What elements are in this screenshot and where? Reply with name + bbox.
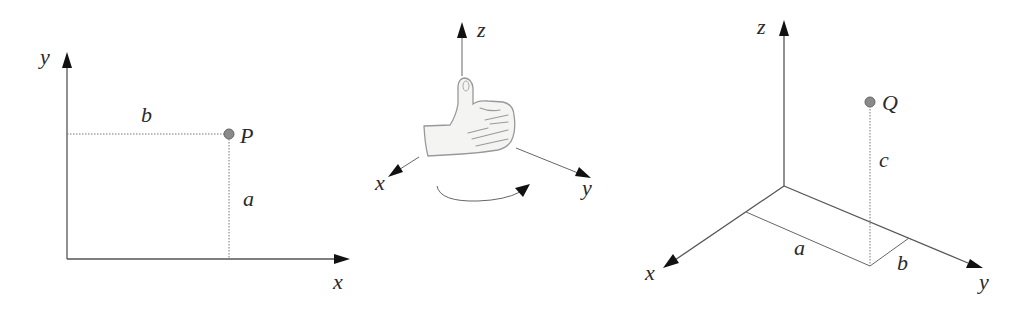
middle-right-hand-panel: z x y xyxy=(374,17,592,201)
x-arrowhead-icon xyxy=(388,164,403,177)
z-axis-label: z xyxy=(756,14,766,39)
q-label: Q xyxy=(882,90,898,115)
y-arrowhead-icon xyxy=(62,52,72,68)
z-arrowhead-icon xyxy=(779,20,789,36)
left-2d-panel: y b P a x xyxy=(38,44,350,294)
a-label: a xyxy=(243,186,254,211)
y-axis xyxy=(784,186,968,263)
p-label: P xyxy=(239,123,253,148)
y-axis-label: y xyxy=(977,269,989,294)
y-arrowhead-icon xyxy=(966,259,983,268)
thumbs-up-hand-icon xyxy=(424,78,515,156)
b-label: b xyxy=(897,250,908,275)
x-axis-label: x xyxy=(332,269,343,294)
x-axis-label: x xyxy=(374,170,385,195)
b-label: b xyxy=(141,102,152,127)
c-label: c xyxy=(879,147,889,172)
rotation-arc xyxy=(437,186,520,201)
z-arrowhead-icon xyxy=(457,22,467,38)
coordinate-systems-figure: y b P a x z x y z xyxy=(0,0,1029,309)
point-p xyxy=(224,129,234,139)
y-axis-label: y xyxy=(580,175,592,200)
y-axis xyxy=(516,148,578,173)
x-arrowhead-icon xyxy=(663,254,679,268)
rotation-arrowhead-icon xyxy=(515,184,530,197)
right-3d-panel: z x y Q c a b xyxy=(644,14,989,294)
x-arrowhead-icon xyxy=(334,254,350,264)
a-label: a xyxy=(794,235,805,260)
point-q xyxy=(865,97,875,107)
z-axis-label: z xyxy=(476,17,486,42)
x-axis-label: x xyxy=(644,260,655,285)
y-axis-label: y xyxy=(38,44,50,69)
a-projection-line xyxy=(746,212,870,266)
x-axis xyxy=(675,186,784,260)
